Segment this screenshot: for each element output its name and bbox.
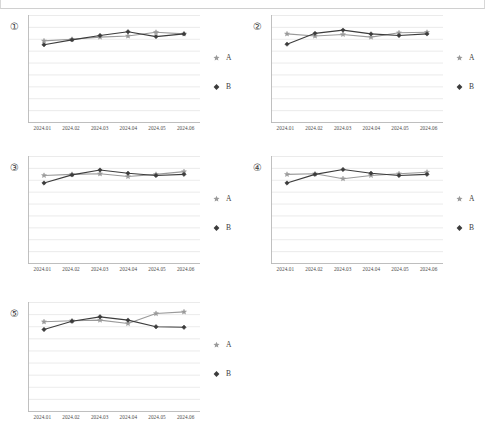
line-chart-plot-area — [271, 15, 443, 123]
x-axis-tick-label: 2024.02 — [300, 125, 329, 137]
legend-item-label: B — [226, 369, 231, 379]
chart-panel-4: ④2024.012024.022024.032024.042024.052024… — [243, 150, 485, 290]
panel-index-badge: ④ — [251, 161, 264, 174]
legend-item-label: A — [469, 53, 474, 63]
x-axis-tick-label: 2024.01 — [271, 266, 300, 278]
x-axis-tick-label: 2024.05 — [386, 125, 415, 137]
x-axis-tick-labels: 2024.012024.022024.032024.042024.052024.… — [28, 414, 200, 426]
x-axis-tick-label: 2024.06 — [171, 266, 200, 278]
chart-legend: AB — [211, 340, 251, 398]
star-marker-icon — [454, 194, 465, 204]
legend-item-b[interactable]: B — [454, 82, 485, 92]
panel-index-badge: ① — [8, 20, 21, 33]
diamond-marker-icon — [454, 223, 465, 233]
legend-item-label: B — [469, 223, 474, 233]
x-axis-tick-label: 2024.05 — [143, 266, 172, 278]
x-axis-tick-labels: 2024.012024.022024.032024.042024.052024.… — [271, 125, 443, 137]
line-chart-plot-area — [28, 156, 200, 264]
top-container-frame — [0, 0, 485, 9]
x-axis-tick-label: 2024.01 — [28, 125, 57, 137]
line-chart-plot-area — [28, 15, 200, 123]
x-axis-tick-label: 2024.04 — [114, 414, 143, 426]
x-axis-tick-label: 2024.04 — [357, 266, 386, 278]
x-axis-tick-label: 2024.03 — [85, 266, 114, 278]
diamond-marker-icon — [211, 223, 222, 233]
x-axis-tick-label: 2024.02 — [57, 414, 86, 426]
x-axis-tick-label: 2024.03 — [328, 266, 357, 278]
legend-item-label: A — [226, 340, 231, 350]
legend-item-label: B — [469, 82, 474, 92]
diamond-marker-icon — [454, 82, 465, 92]
star-marker-icon — [211, 53, 222, 63]
chart-legend: AB — [454, 194, 485, 252]
panel-index-badge: ③ — [8, 161, 21, 174]
legend-item-label: A — [226, 53, 231, 63]
x-axis-tick-label: 2024.03 — [328, 125, 357, 137]
chart-panel-3: ③2024.012024.022024.032024.042024.052024… — [0, 150, 243, 290]
legend-item-label: B — [226, 82, 231, 92]
x-axis-tick-label: 2024.02 — [57, 125, 86, 137]
legend-item-b[interactable]: B — [211, 369, 251, 379]
x-axis-tick-labels: 2024.012024.022024.032024.042024.052024.… — [28, 125, 200, 137]
x-axis-tick-labels: 2024.012024.022024.032024.042024.052024.… — [28, 266, 200, 278]
x-axis-tick-label: 2024.03 — [85, 125, 114, 137]
x-axis-tick-label: 2024.04 — [114, 266, 143, 278]
x-axis-tick-label: 2024.03 — [85, 414, 114, 426]
chart-panel-2: ②2024.012024.022024.032024.042024.052024… — [243, 9, 485, 150]
line-chart-plot-area — [271, 156, 443, 264]
x-axis-tick-label: 2024.01 — [271, 125, 300, 137]
diamond-marker-icon — [211, 369, 222, 379]
legend-item-a[interactable]: A — [211, 340, 251, 350]
legend-item-b[interactable]: B — [454, 223, 485, 233]
x-axis-tick-label: 2024.04 — [357, 125, 386, 137]
x-axis-tick-label: 2024.06 — [171, 125, 200, 137]
x-axis-tick-label: 2024.01 — [28, 414, 57, 426]
legend-item-label: B — [226, 223, 231, 233]
legend-item-label: A — [226, 194, 231, 204]
chart-panel-1: ①2024.012024.022024.032024.042024.052024… — [0, 9, 243, 150]
legend-item-a[interactable]: A — [454, 53, 485, 63]
star-marker-icon — [454, 53, 465, 63]
x-axis-tick-label: 2024.06 — [171, 414, 200, 426]
star-marker-icon — [211, 194, 222, 204]
panel-index-badge: ② — [251, 20, 264, 33]
legend-item-a[interactable]: A — [454, 194, 485, 204]
x-axis-tick-label: 2024.06 — [414, 266, 443, 278]
x-axis-tick-labels: 2024.012024.022024.032024.042024.052024.… — [271, 266, 443, 278]
x-axis-tick-label: 2024.06 — [414, 125, 443, 137]
chart-panel-5: ⑤2024.012024.022024.032024.042024.052024… — [0, 290, 243, 432]
line-chart-plot-area — [28, 302, 200, 412]
x-axis-tick-label: 2024.01 — [28, 266, 57, 278]
x-axis-tick-label: 2024.05 — [143, 125, 172, 137]
x-axis-tick-label: 2024.02 — [300, 266, 329, 278]
chart-legend: AB — [454, 53, 485, 111]
x-axis-tick-label: 2024.05 — [143, 414, 172, 426]
chart-panel-grid: ①2024.012024.022024.032024.042024.052024… — [0, 9, 485, 432]
legend-item-label: A — [469, 194, 474, 204]
panel-index-badge: ⑤ — [8, 307, 21, 320]
x-axis-tick-label: 2024.04 — [114, 125, 143, 137]
star-marker-icon — [211, 340, 222, 350]
x-axis-tick-label: 2024.05 — [386, 266, 415, 278]
diamond-marker-icon — [211, 82, 222, 92]
x-axis-tick-label: 2024.02 — [57, 266, 86, 278]
